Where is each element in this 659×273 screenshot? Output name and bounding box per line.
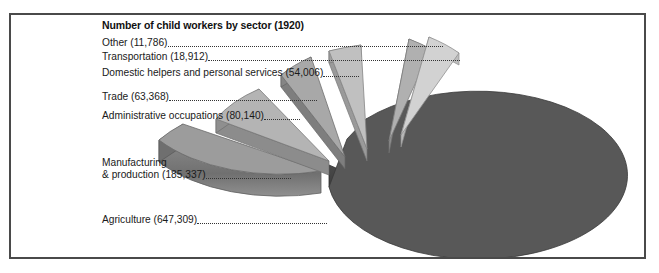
page-title: Number of child workers by sector (1920)	[102, 19, 304, 31]
leader-line-administrative	[264, 110, 300, 120]
leader-line-transportation	[208, 51, 460, 61]
callout-agriculture: Agriculture (647,309)	[102, 214, 327, 226]
callout-transportation: Transportation (18,912)	[102, 51, 460, 63]
callout-other: Other (11,786)	[102, 37, 443, 49]
callout-manufacturing: Manufacturing & production (185,337)	[102, 157, 291, 181]
callout-trade-text: Trade (63,368)	[102, 91, 169, 103]
leader-line-agriculture	[197, 214, 327, 224]
callout-administrative-text: Administrative occupations (80,140)	[102, 110, 264, 122]
callout-transportation-text: Transportation (18,912)	[102, 51, 208, 63]
callout-administrative: Administrative occupations (80,140)	[102, 110, 300, 122]
callout-domestic-text: Domestic helpers and personal services (…	[102, 67, 323, 79]
leader-line-other	[168, 37, 443, 47]
callout-trade: Trade (63,368)	[102, 91, 317, 103]
callout-domestic: Domestic helpers and personal services (…	[102, 67, 359, 79]
leader-line-domestic	[323, 67, 359, 77]
callout-manufacturing-text-line1: Manufacturing	[102, 157, 291, 169]
figure-frame: Number of child workers by sector (1920)	[9, 13, 646, 259]
callout-agriculture-text: Agriculture (647,309)	[102, 214, 197, 226]
pie-slice-agriculture	[329, 91, 628, 259]
leader-line-trade	[169, 91, 317, 101]
leader-line-manufacturing	[206, 169, 291, 179]
callout-manufacturing-text-line2: & production (185,337)	[102, 169, 206, 181]
callout-other-text: Other (11,786)	[102, 37, 168, 49]
